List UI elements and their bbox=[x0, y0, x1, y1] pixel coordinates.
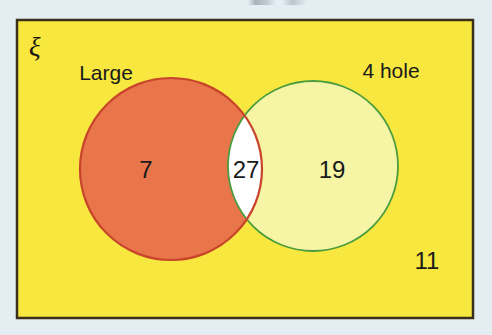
venn-diagram-canvas: ξ Large 4 hole 7 27 19 11 bbox=[0, 0, 492, 335]
set-label-four-hole: 4 hole bbox=[362, 59, 419, 82]
large-only-count: 7 bbox=[139, 156, 152, 183]
intersection-count: 27 bbox=[233, 156, 260, 183]
universal-set-symbol: ξ bbox=[29, 32, 41, 62]
four-hole-only-count: 19 bbox=[319, 156, 346, 183]
venn-diagram-svg: ξ Large 4 hole 7 27 19 11 bbox=[0, 0, 492, 335]
set-label-large: Large bbox=[79, 61, 133, 84]
outside-count: 11 bbox=[415, 247, 440, 274]
